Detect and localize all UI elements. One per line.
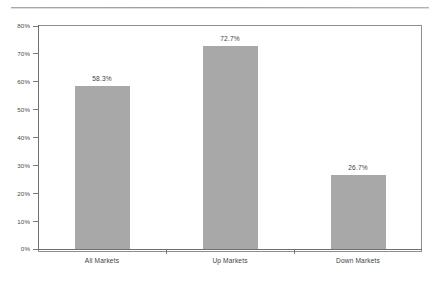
bar — [203, 46, 258, 249]
y-axis-tick — [33, 26, 38, 27]
y-axis-tick — [33, 109, 38, 110]
x-axis-tick — [166, 250, 167, 254]
x-axis-category-label: Down Markets — [303, 256, 413, 265]
x-axis-line — [38, 249, 422, 250]
y-axis-tick — [33, 53, 38, 54]
y-axis-tick-label: 70% — [0, 50, 30, 57]
page-divider-rule — [11, 7, 429, 8]
y-axis-tick — [33, 249, 38, 250]
y-axis-tick-label: 30% — [0, 162, 30, 169]
x-axis-category-label: Up Markets — [175, 256, 285, 265]
y-axis-tick — [33, 165, 38, 166]
bar-chart-figure: 0%10%20%30%40%50%60%70%80% All MarketsUp… — [0, 0, 441, 284]
y-axis-tick — [33, 193, 38, 194]
x-axis-category-label: All Markets — [47, 256, 157, 265]
x-axis-tick — [294, 250, 295, 254]
y-axis-tick-label: 0% — [0, 245, 30, 252]
y-axis-tick-label: 10% — [0, 218, 30, 225]
bar-value-label: 72.7% — [200, 35, 260, 43]
y-axis-tick-label: 20% — [0, 190, 30, 197]
bar-value-label: 58.3% — [72, 75, 132, 83]
y-axis-tick-label: 50% — [0, 106, 30, 113]
bar — [75, 86, 130, 249]
y-axis-line — [38, 25, 39, 250]
bar-value-label: 26.7% — [328, 164, 388, 172]
y-axis-tick — [33, 221, 38, 222]
bar — [331, 175, 386, 249]
y-axis-tick-label: 60% — [0, 78, 30, 85]
y-axis-tick — [33, 81, 38, 82]
y-axis-tick — [33, 137, 38, 138]
y-axis-tick-label: 40% — [0, 134, 30, 141]
y-axis-tick-label: 80% — [0, 22, 30, 29]
